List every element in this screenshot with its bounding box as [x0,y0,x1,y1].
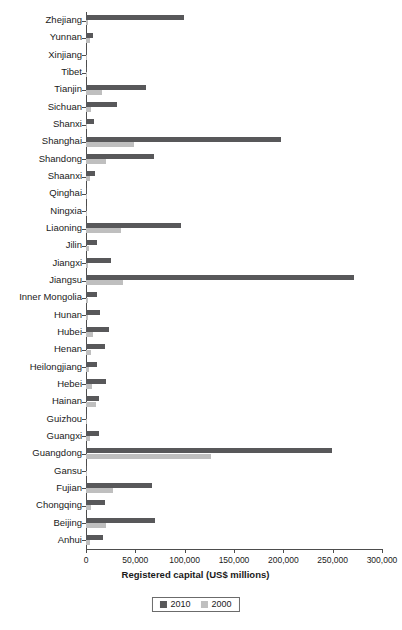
bar-2000 [86,263,88,268]
x-axis-title: Registered capital (US$ millions) [0,569,391,580]
y-axis-tick [82,367,86,368]
category-label: Yunnan [0,32,82,42]
x-axis-tick [382,549,383,553]
category-label: Guizhou [0,414,82,424]
category-label: Henan [0,344,82,354]
y-axis-tick [82,419,86,420]
bar-2000 [86,159,106,164]
chart-legend: 2010 2000 [151,597,239,612]
bar-2000 [86,176,90,181]
category-label: Hubei [0,327,82,337]
bar-2000 [86,488,113,493]
category-label: Xinjiang [0,50,82,60]
bar-2000 [86,436,90,441]
x-axis-tick-label: 300,000 [355,555,402,565]
category-label: Ningxia [0,206,82,216]
category-label: Jiangsu [0,275,82,285]
plot-area [86,12,382,549]
y-axis-tick [82,211,86,212]
bar-2000 [86,471,87,476]
y-axis-tick [82,229,86,230]
bar-2000 [86,315,88,320]
bar-2000 [86,246,89,251]
bar-2010 [86,258,111,263]
category-label: Zhejiang [0,15,82,25]
bar-2000 [86,280,123,285]
legend-swatch-2010 [159,601,166,608]
y-axis-tick [82,488,86,489]
x-axis-tick [135,549,136,553]
category-label: Hunan [0,310,82,320]
category-label-column: ZhejiangYunnanXinjiangTibetTianjinSichua… [0,12,82,549]
bar-2000 [86,20,88,25]
category-label: Shanghai [0,136,82,146]
x-axis-tick-label: 250,000 [306,555,360,565]
bar-2000 [86,523,106,528]
category-label: Fujian [0,483,82,493]
category-label: Jilin [0,240,82,250]
bar-2000 [86,142,134,147]
y-axis-tick [82,281,86,282]
x-axis-tick [185,549,186,553]
category-label: Hainan [0,396,82,406]
y-axis-tick [82,298,86,299]
y-axis-tick [82,55,86,56]
legend-item-2000: 2000 [201,600,232,609]
y-axis-tick [82,142,86,143]
y-axis-tick [82,350,86,351]
bar-2010 [86,275,354,280]
category-label: Gansu [0,466,82,476]
bar-2000 [86,332,93,337]
category-label: Qinghai [0,188,82,198]
category-label: Anhui [0,535,82,545]
category-label: Inner Mongolia [0,292,82,302]
y-axis-tick [82,506,86,507]
y-axis-tick [82,177,86,178]
category-label: Beijing [0,518,82,528]
y-axis-tick [82,246,86,247]
y-axis-tick [82,90,86,91]
y-axis-tick [82,523,86,524]
bar-2000 [86,367,89,372]
bar-2000 [86,454,211,459]
y-axis-tick [82,384,86,385]
y-axis-tick [82,315,86,316]
category-label: Shandong [0,154,82,164]
category-label: Heilongjiang [0,362,82,372]
y-axis-tick [82,436,86,437]
category-label: Tibet [0,67,82,77]
legend-label-2010: 2010 [170,600,190,609]
y-axis-tick [82,125,86,126]
bar-2000 [86,72,87,77]
x-axis-tick [234,549,235,553]
x-axis-tick-label: 200,000 [256,555,310,565]
legend-item-2010: 2010 [159,600,190,609]
y-axis-tick [82,332,86,333]
y-axis-tick [82,471,86,472]
bar-2000 [86,298,88,303]
bar-2000 [86,402,96,407]
x-axis-tick-label: 150,000 [207,555,261,565]
y-axis-tick [82,107,86,108]
y-axis-tick [82,454,86,455]
category-label: Sichuan [0,102,82,112]
y-axis-tick [82,21,86,22]
x-axis-tick-label: 100,000 [158,555,212,565]
bar-2000 [86,540,90,545]
bar-2010 [86,15,184,20]
x-axis-tick [333,549,334,553]
category-label: Hebei [0,379,82,389]
legend-label-2000: 2000 [212,600,232,609]
bar-2000 [86,90,102,95]
x-axis-tick [283,549,284,553]
y-axis-tick [82,402,86,403]
category-label: Shanxi [0,119,82,129]
bar-2000 [86,211,87,216]
legend-swatch-2000 [201,601,208,608]
bar-2000 [86,107,91,112]
y-axis-tick [82,540,86,541]
bar-2000 [86,384,92,389]
y-axis-tick [82,38,86,39]
x-axis-tick-label: 50,000 [108,555,162,565]
category-label: Guangdong [0,448,82,458]
